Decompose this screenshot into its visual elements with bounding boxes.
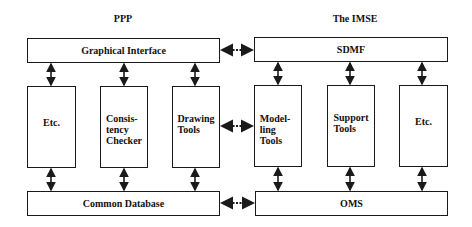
consistency-checker-box: Consis- tency Checker <box>100 86 148 168</box>
etc-box-right: Etc. <box>399 85 448 167</box>
modelling-tools-label: Model- ling Tools <box>260 113 291 146</box>
modelling-tools-box: Model- ling Tools <box>254 85 302 167</box>
imse-title: The IMSE <box>310 13 400 24</box>
support-tools-label: Support Tools <box>333 112 368 134</box>
common-database-label: Common Database <box>83 198 164 209</box>
oms-label: OMS <box>340 198 363 209</box>
etc-box-left: Etc. <box>27 86 76 168</box>
etc-right-label: Etc. <box>415 116 432 127</box>
drawing-tools-label: Drawing Tools <box>177 113 214 135</box>
support-tools-box: Support Tools <box>327 85 375 167</box>
drawing-tools-box: Drawing Tools <box>172 86 220 168</box>
graphical-interface-label: Graphical Interface <box>81 45 166 56</box>
sdmf-label: SDMF <box>337 44 365 55</box>
sdmf-box: SDMF <box>254 37 448 62</box>
ppp-title: PPP <box>93 13 153 24</box>
etc-left-label: Etc. <box>43 117 60 128</box>
oms-box: OMS <box>255 191 448 216</box>
consistency-checker-label: Consis- tency Checker <box>106 113 142 146</box>
graphical-interface-box: Graphical Interface <box>27 38 220 63</box>
common-database-box: Common Database <box>27 191 220 216</box>
